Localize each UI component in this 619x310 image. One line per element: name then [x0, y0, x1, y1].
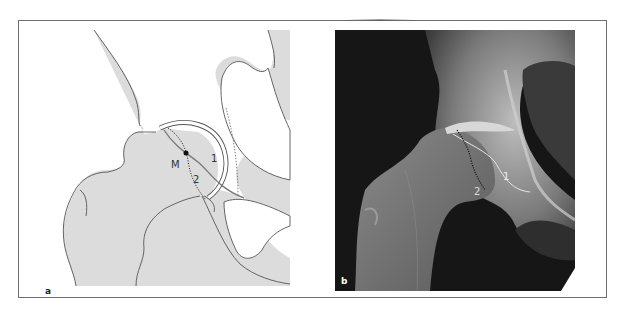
panel-label-a: a: [45, 286, 51, 296]
label-2: 2: [193, 174, 199, 185]
label-1: 1: [503, 171, 509, 182]
top-shadow: [345, 19, 415, 21]
label-1: 1: [211, 153, 217, 164]
hip-radiograph: 1 2 b: [335, 30, 575, 291]
panel-b-radiograph: 1 2 b: [335, 30, 575, 291]
label-m: M: [171, 159, 180, 170]
ilium-outline: [94, 30, 140, 126]
panel-a-drawing: M 1 2 a: [18, 20, 318, 298]
center-point-m: [184, 151, 189, 156]
hip-schematic: M 1 2 a: [18, 20, 318, 298]
panel-label-b: b: [341, 276, 348, 286]
label-2: 2: [474, 186, 480, 197]
